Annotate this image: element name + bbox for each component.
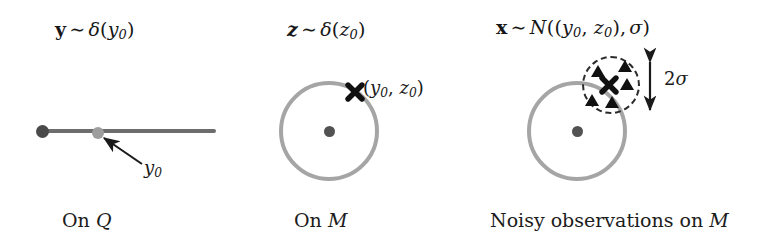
caption-manifold-m: M	[709, 209, 729, 231]
figure-root: y∼δ(y0) y0 On Q z∼δ(z0)	[0, 0, 771, 251]
observation-triangle	[605, 96, 619, 108]
label-y0-z0: (y0, z0)	[363, 77, 424, 100]
label-z0-symbol: z	[399, 77, 408, 98]
observation-triangle	[618, 60, 632, 72]
label-y0: y0	[144, 157, 162, 180]
caption-prefix: On	[62, 209, 90, 231]
label-open-paren: (	[363, 77, 370, 98]
caption-on-q: On Q	[62, 209, 112, 231]
label-y0-subscript: 0	[380, 86, 388, 100]
y0-pointer-arrow	[104, 138, 142, 164]
caption-prefix: Noisy observations on	[490, 209, 703, 231]
label-close-paren: )	[417, 77, 424, 98]
caption-noisy-observations: Noisy observations on M	[490, 209, 729, 231]
label-y0-symbol: y	[144, 157, 154, 178]
caption-manifold-m: M	[328, 209, 348, 231]
label-z0-subscript: 0	[409, 86, 417, 100]
label-two-sigma-factor: 2	[664, 68, 675, 89]
caption-manifold-q: Q	[96, 209, 112, 231]
cross-marker-y0z0	[348, 85, 362, 99]
observation-triangle	[585, 94, 599, 106]
observation-triangle	[591, 65, 605, 77]
panel-latent-line: y∼δ(y0) y0 On Q	[0, 0, 258, 251]
cross-marker-mean	[602, 78, 616, 92]
label-y0-subscript: 0	[154, 166, 162, 180]
panel-manifold-circle: z∼δ(z0) (y0, z0) On M	[258, 0, 488, 251]
caption-prefix: On	[294, 209, 322, 231]
label-y0-symbol: y	[370, 77, 380, 98]
observation-triangle	[620, 78, 634, 90]
cross-marker-svg	[258, 0, 488, 251]
panel-noisy-observations: x∼N((y0, z0),σ)	[488, 0, 771, 251]
label-two-sigma-symbol: σ	[675, 68, 687, 89]
label-comma: ,	[388, 77, 399, 98]
caption-on-m: On M	[294, 209, 348, 231]
y0-arrow-svg	[0, 0, 258, 251]
label-two-sigma: 2σ	[664, 68, 688, 89]
